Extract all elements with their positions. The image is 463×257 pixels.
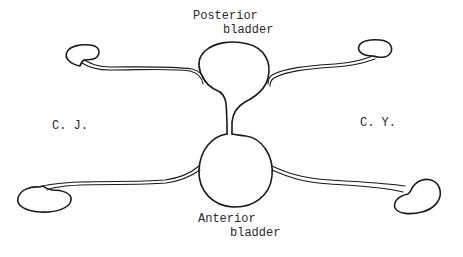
right-subject-label: C. Y. [360, 117, 396, 130]
ureter-lower-left-inner [47, 170, 200, 190]
anterior-label-line1: Anterior [198, 213, 256, 226]
left-subject-label: C. J. [52, 120, 88, 133]
diagram-canvas: Posterior bladder Anterior bladder C. J.… [0, 0, 463, 257]
kidney-lower-left [18, 186, 71, 212]
anterior-bladder [199, 134, 272, 207]
kidney-upper-right [359, 40, 392, 58]
posterior-bladder-left-side [220, 92, 227, 134]
posterior-bladder [199, 42, 269, 134]
ureter-lower-right [272, 166, 405, 186]
ureter-upper-right [268, 56, 373, 84]
posterior-label-line2: bladder [223, 24, 273, 37]
ureter-lower-left [43, 166, 199, 186]
posterior-label-line1: Posterior [193, 10, 258, 23]
anterior-label-line2: bladder [230, 227, 280, 240]
ureter-upper-right-inner [270, 59, 375, 86]
kidney-lower-right [395, 179, 441, 213]
